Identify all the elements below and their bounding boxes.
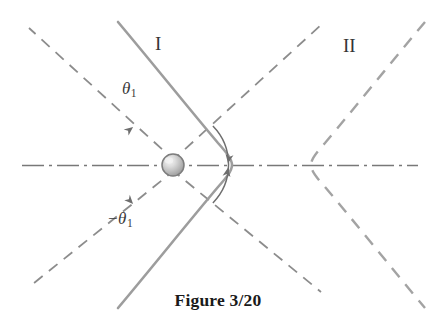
angle-negative-sign-glyph: − — [108, 209, 118, 228]
figure-caption: Figure 3/20 — [0, 290, 436, 311]
angle-negative-subscript: 1 — [127, 217, 133, 229]
angle-arc-arrow-positive — [123, 124, 135, 136]
branch-one-label: I — [155, 34, 161, 53]
angle-positive-theta-glyph: θ — [122, 79, 130, 98]
sphere-body — [162, 154, 184, 176]
asymptote-upper-right-line — [171, 25, 321, 162]
angle-positive-label: θ1 — [122, 80, 137, 100]
orbital-trajectory-diagram — [0, 0, 436, 327]
sphere-highlight — [165, 157, 173, 163]
asymptote-upper-left-line — [29, 28, 176, 162]
asymptote-lower-left-line — [29, 169, 176, 287]
angle-negative-label: −θ1 — [108, 210, 133, 230]
angle-arc-arrow-negative — [124, 194, 136, 206]
branch-two-label: II — [343, 36, 356, 55]
central-sphere — [162, 154, 184, 176]
figure-container: I II θ1 −θ1 Figure 3/20 — [0, 0, 436, 327]
angle-negative-theta-glyph: θ — [118, 209, 126, 228]
asymptote-lower-right-line — [171, 169, 321, 292]
angle-positive-subscript: 1 — [131, 87, 137, 99]
